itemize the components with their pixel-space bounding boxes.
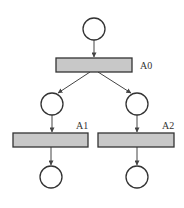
transition-A0 bbox=[56, 58, 132, 72]
place-p0 bbox=[83, 18, 105, 40]
arc-A0-p2 bbox=[98, 72, 131, 93]
petri-net-diagram: A0 A1 A2 bbox=[0, 0, 184, 208]
arc-A0-p1 bbox=[58, 72, 90, 93]
transition-A1 bbox=[13, 133, 88, 147]
place-p4 bbox=[126, 166, 148, 188]
place-p2 bbox=[126, 93, 148, 115]
place-p3 bbox=[40, 166, 62, 188]
label-A1: A1 bbox=[76, 120, 88, 131]
transitions bbox=[13, 58, 174, 147]
label-A2: A2 bbox=[162, 120, 174, 131]
label-A0: A0 bbox=[140, 60, 152, 71]
place-p1 bbox=[41, 93, 63, 115]
transition-A2 bbox=[98, 133, 174, 147]
